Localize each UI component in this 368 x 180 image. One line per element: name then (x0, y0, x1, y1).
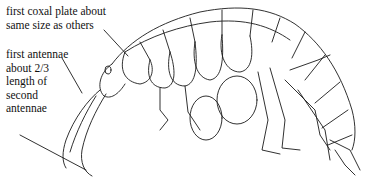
amphipod-illustration (0, 0, 368, 180)
antennae-leader-line-2 (20, 135, 86, 170)
antennae-leader-line-1 (62, 58, 82, 93)
coxal-leader-line (104, 30, 128, 56)
